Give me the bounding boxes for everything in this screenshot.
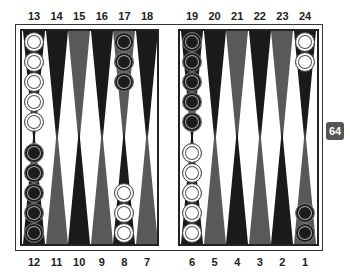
doubling-cube[interactable]: 64 — [326, 122, 344, 140]
white-checker[interactable] — [182, 183, 202, 203]
point-label-14: 14 — [46, 10, 68, 22]
point-label-16: 16 — [91, 10, 113, 22]
board-right-half — [178, 29, 319, 246]
white-checker[interactable] — [24, 52, 44, 72]
black-checker[interactable] — [24, 183, 44, 203]
point-triangle — [226, 128, 248, 244]
white-checker[interactable] — [295, 32, 315, 52]
point-label-21: 21 — [226, 10, 248, 22]
point-9[interactable] — [91, 128, 113, 244]
point-label-17: 17 — [113, 10, 135, 22]
point-triangle — [68, 128, 90, 244]
white-checker[interactable] — [295, 52, 315, 72]
black-checker[interactable] — [182, 72, 202, 92]
white-checker[interactable] — [24, 32, 44, 52]
point-triangle — [249, 128, 271, 244]
point-label-2: 2 — [271, 256, 293, 268]
black-checker[interactable] — [295, 223, 315, 243]
white-checker[interactable] — [182, 223, 202, 243]
point-label-7: 7 — [136, 256, 158, 268]
black-checker[interactable] — [24, 223, 44, 243]
point-label-9: 9 — [91, 256, 113, 268]
point-10[interactable] — [68, 128, 90, 244]
point-2[interactable] — [271, 128, 293, 244]
point-label-19: 19 — [181, 10, 203, 22]
point-label-3: 3 — [249, 256, 271, 268]
point-12[interactable] — [23, 128, 45, 244]
point-label-12: 12 — [23, 256, 45, 268]
black-checker[interactable] — [295, 203, 315, 223]
point-11[interactable] — [46, 128, 68, 244]
point-label-13: 13 — [23, 10, 45, 22]
point-3[interactable] — [249, 128, 271, 244]
white-checker[interactable] — [24, 72, 44, 92]
point-7[interactable] — [136, 128, 158, 244]
point-triangle — [204, 128, 226, 244]
point-1[interactable] — [294, 128, 316, 244]
point-label-22: 22 — [249, 10, 271, 22]
point-label-8: 8 — [113, 256, 135, 268]
point-label-15: 15 — [68, 10, 90, 22]
point-triangle — [271, 128, 293, 244]
point-triangle — [91, 128, 113, 244]
point-triangle — [136, 128, 158, 244]
point-5[interactable] — [204, 128, 226, 244]
black-checker[interactable] — [182, 52, 202, 72]
black-checker[interactable] — [24, 143, 44, 163]
black-checker[interactable] — [24, 163, 44, 183]
white-checker[interactable] — [182, 163, 202, 183]
point-label-10: 10 — [68, 256, 90, 268]
point-triangle — [46, 128, 68, 244]
white-checker[interactable] — [182, 203, 202, 223]
board-left-half — [20, 29, 159, 246]
point-8[interactable] — [113, 128, 135, 244]
point-label-20: 20 — [204, 10, 226, 22]
point-label-11: 11 — [46, 256, 68, 268]
black-checker[interactable] — [24, 203, 44, 223]
white-checker[interactable] — [24, 92, 44, 112]
point-label-5: 5 — [204, 256, 226, 268]
point-label-6: 6 — [181, 256, 203, 268]
point-label-18: 18 — [136, 10, 158, 22]
black-checker[interactable] — [182, 32, 202, 52]
point-label-23: 23 — [271, 10, 293, 22]
point-6[interactable] — [181, 128, 203, 244]
point-label-4: 4 — [226, 256, 248, 268]
point-label-1: 1 — [294, 256, 316, 268]
point-4[interactable] — [226, 128, 248, 244]
black-checker[interactable] — [182, 92, 202, 112]
point-label-24: 24 — [294, 10, 316, 22]
white-checker[interactable] — [182, 143, 202, 163]
